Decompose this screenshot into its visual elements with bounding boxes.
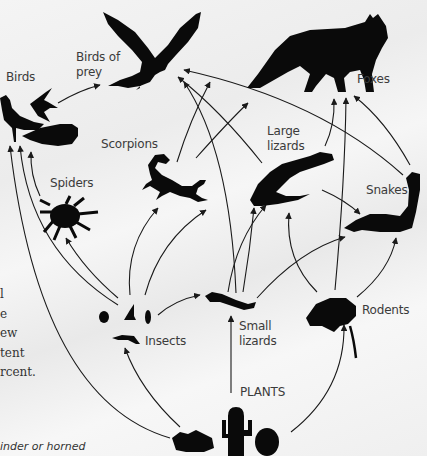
edge-insects-to-scorpions (129, 208, 158, 295)
label-large-lizards: Large lizards (267, 124, 305, 154)
edge-insects-to-small-lizards (158, 295, 200, 315)
label-small-lizards: Small lizards (239, 319, 277, 349)
side-text-fragment: l e ew tent rcent. (0, 285, 36, 383)
large-lizards-icon (250, 152, 334, 206)
side-text-line: e (0, 305, 36, 325)
small-lizards-icon (205, 292, 256, 310)
caption-fragment: inder or horned (0, 440, 86, 453)
label-small-lizards-line-2: lizards (239, 334, 277, 349)
edge-rodents-to-snakes (357, 238, 396, 297)
food-web-diagram (0, 0, 427, 456)
spiders-icon (40, 196, 98, 240)
edge-scorpions-to-foxes (196, 103, 248, 158)
edge-rodents-to-large-lizards (289, 213, 317, 292)
edge-snakes-to-foxes (354, 96, 410, 165)
edge-plants-to-rodents (291, 325, 344, 432)
label-small-lizards-line-1: Small (239, 319, 277, 334)
side-text-line: l (0, 285, 36, 305)
edge-insects-to-spiders (66, 238, 118, 298)
label-rodents: Rodents (362, 303, 409, 318)
label-birds-of-prey: Birds of prey (76, 50, 120, 80)
snakes-icon (344, 172, 420, 232)
label-insects: Insects (145, 334, 186, 349)
edge-birds-to-birds-of-prey (58, 85, 100, 103)
rodents-icon (306, 298, 356, 358)
label-plants: PLANTS (240, 385, 285, 400)
edge-spiders-to-birds (31, 152, 40, 196)
insects-icon (99, 304, 151, 344)
edge-insects-to-scorpions-2 (145, 210, 206, 295)
label-birds-of-prey-line-2: prey (76, 65, 120, 80)
label-birds: Birds (6, 70, 35, 85)
label-snakes: Snakes (366, 183, 408, 198)
side-text-line: tent (0, 344, 36, 364)
side-text-line: rcent. (0, 363, 36, 383)
label-birds-of-prey-line-1: Birds of (76, 50, 120, 65)
label-spiders: Spiders (50, 176, 93, 191)
label-foxes: Foxes (357, 72, 390, 87)
plants-icon (172, 407, 279, 456)
edge-small-lizards-to-snakes (257, 237, 345, 298)
scorpions-icon (142, 154, 208, 202)
label-large-lizards-line-1: Large (267, 124, 305, 139)
edge-large-lizards-to-birds-of-prey (178, 77, 262, 163)
birds-icon (0, 88, 78, 146)
edge-plants-to-insects (125, 348, 180, 427)
edge-small-lizards-to-large-lizards (228, 205, 266, 292)
label-large-lizards-line-2: lizards (267, 139, 305, 154)
side-text-line: ew (0, 324, 36, 344)
label-scorpions: Scorpions (101, 137, 158, 152)
edge-small-lizards-to-large-lizards-2 (243, 208, 254, 292)
